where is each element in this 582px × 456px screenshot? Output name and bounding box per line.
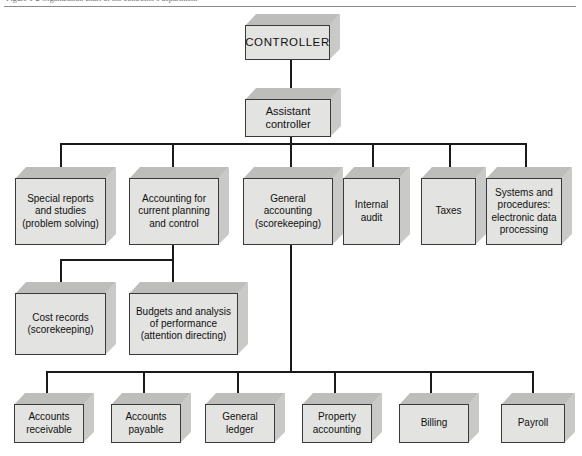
internal-audit-front-face: Internal audit (343, 178, 400, 245)
general-accounting-label: General accounting (scorekeeping) (253, 193, 323, 230)
node-general-accounting[interactable]: General accounting (scorekeeping) (243, 167, 353, 245)
connector-level4-left-bus (60, 259, 174, 261)
connector-controller-to-assistant (290, 59, 292, 88)
node-cost-records[interactable]: Cost records (scorekeeping) (15, 282, 127, 355)
node-accounts-receivable[interactable]: Accounts receivable (14, 393, 102, 443)
billing-label: Billing (419, 417, 450, 429)
special-reports-side-face (105, 167, 117, 245)
accounts-receivable-label: Accounts receivable (24, 411, 74, 435)
accounting-current-planning-label: Accounting for current planning and cont… (136, 193, 212, 230)
controller-front-face: CONTROLLER (245, 25, 330, 60)
node-general-ledger[interactable]: General ledger (205, 393, 293, 443)
budgets-analysis-side-face (237, 282, 249, 355)
budgets-analysis-front-face: Budgets and analysis of performance (att… (129, 293, 238, 355)
node-internal-audit[interactable]: Internal audit (343, 167, 415, 245)
node-taxes[interactable]: Taxes (421, 167, 491, 245)
accounting-current-planning-side-face (218, 167, 230, 245)
connector-level4-bottom-bus (46, 371, 534, 373)
assistant-controller-front-face: Assistant controller (245, 99, 331, 137)
assistant-controller-label: Assistant controller (263, 105, 312, 132)
internal-audit-side-face (399, 167, 411, 245)
billing-front-face: Billing (399, 404, 469, 443)
taxes-front-face: Taxes (421, 178, 476, 245)
node-payroll[interactable]: Payroll (501, 393, 581, 443)
taxes-label: Taxes (433, 205, 463, 217)
general-ledger-label: General ledger (220, 411, 260, 435)
special-reports-label: Special reports and studies (problem sol… (20, 193, 101, 230)
internal-audit-label: Internal audit (353, 199, 390, 223)
budgets-analysis-label: Budgets and analysis of performance (att… (134, 306, 233, 343)
special-reports-front-face: Special reports and studies (problem sol… (15, 178, 106, 245)
node-budgets-analysis[interactable]: Budgets and analysis of performance (att… (129, 282, 259, 355)
org-chart-figure: Figure 1-2 Organization chart of the con… (0, 0, 582, 456)
node-accounts-payable[interactable]: Accounts payable (111, 393, 199, 443)
controller-label: CONTROLLER (243, 35, 332, 49)
systems-procedures-side-face (561, 167, 573, 245)
general-ledger-front-face: General ledger (205, 404, 275, 443)
cost-records-side-face (105, 282, 117, 355)
systems-procedures-front-face: Systems and procedures: electronic data … (486, 178, 562, 245)
payroll-label: Payroll (516, 417, 551, 429)
accounts-payable-front-face: Accounts payable (111, 404, 181, 443)
accounting-current-planning-front-face: Accounting for current planning and cont… (129, 178, 219, 245)
figure-top-rule (4, 6, 576, 7)
connector-level3-bus (60, 143, 526, 145)
node-controller[interactable]: CONTROLLER (245, 14, 351, 60)
connector-general-accounting-stem (290, 245, 292, 373)
systems-procedures-label: Systems and procedures: electronic data … (489, 187, 558, 236)
figure-caption: Figure 1-2 Organization chart of the con… (6, 0, 197, 3)
node-systems-procedures[interactable]: Systems and procedures: electronic data … (486, 167, 578, 245)
cost-records-label: Cost records (scorekeeping) (25, 312, 95, 336)
payroll-front-face: Payroll (501, 404, 565, 443)
accounts-payable-label: Accounts payable (123, 411, 168, 435)
accounts-receivable-front-face: Accounts receivable (14, 404, 84, 443)
node-accounting-current-planning[interactable]: Accounting for current planning and cont… (129, 167, 239, 245)
node-assistant-controller[interactable]: Assistant controller (245, 88, 349, 137)
cost-records-front-face: Cost records (scorekeeping) (15, 293, 106, 355)
general-accounting-front-face: General accounting (scorekeeping) (243, 178, 333, 245)
node-billing[interactable]: Billing (399, 393, 487, 443)
node-special-reports[interactable]: Special reports and studies (problem sol… (15, 167, 127, 245)
node-property-accounting[interactable]: Property accounting (302, 393, 390, 443)
property-accounting-label: Property accounting (311, 411, 363, 435)
property-accounting-front-face: Property accounting (302, 404, 372, 443)
